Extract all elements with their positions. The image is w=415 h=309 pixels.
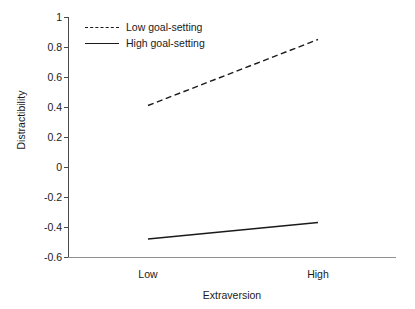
legend-item[interactable]: Low goal-setting <box>85 19 205 35</box>
y-tick-label: 0.4 <box>47 102 62 113</box>
y-tick-label: -0.4 <box>44 222 62 233</box>
y-tick-label: -0.2 <box>44 192 62 203</box>
chart-legend: Low goal-settingHigh goal-setting <box>85 19 205 51</box>
plot-area: 10.80.60.40.20-0.2-0.4-0.6 LowHigh Extra… <box>68 17 396 257</box>
y-axis-title-text: Distractibility <box>15 91 27 150</box>
chart-figure: Distractibility 10.80.60.40.20-0.2-0.4-0… <box>0 0 415 309</box>
x-tick-label: High <box>307 269 329 280</box>
data-series-layer <box>68 17 396 258</box>
y-tick-label: 0.6 <box>47 72 62 83</box>
solid-line-icon <box>85 38 119 48</box>
legend-item-label: Low goal-setting <box>126 21 202 33</box>
x-tick-label: Low <box>138 269 157 280</box>
series-line <box>148 223 318 240</box>
y-tick-label: -0.6 <box>44 252 62 263</box>
y-tick-label: 0.2 <box>47 132 62 143</box>
y-tick-label: 1 <box>56 12 62 23</box>
legend-item-label: High goal-setting <box>126 37 205 49</box>
y-axis-title: Distractibility <box>14 0 28 240</box>
legend-item[interactable]: High goal-setting <box>85 35 205 51</box>
y-tick-label: 0 <box>56 162 62 173</box>
x-axis-title-text: Extraversion <box>203 289 261 301</box>
dashed-line-icon <box>85 22 119 32</box>
y-tick-label: 0.8 <box>47 42 62 53</box>
x-axis-title: Extraversion <box>68 289 396 301</box>
